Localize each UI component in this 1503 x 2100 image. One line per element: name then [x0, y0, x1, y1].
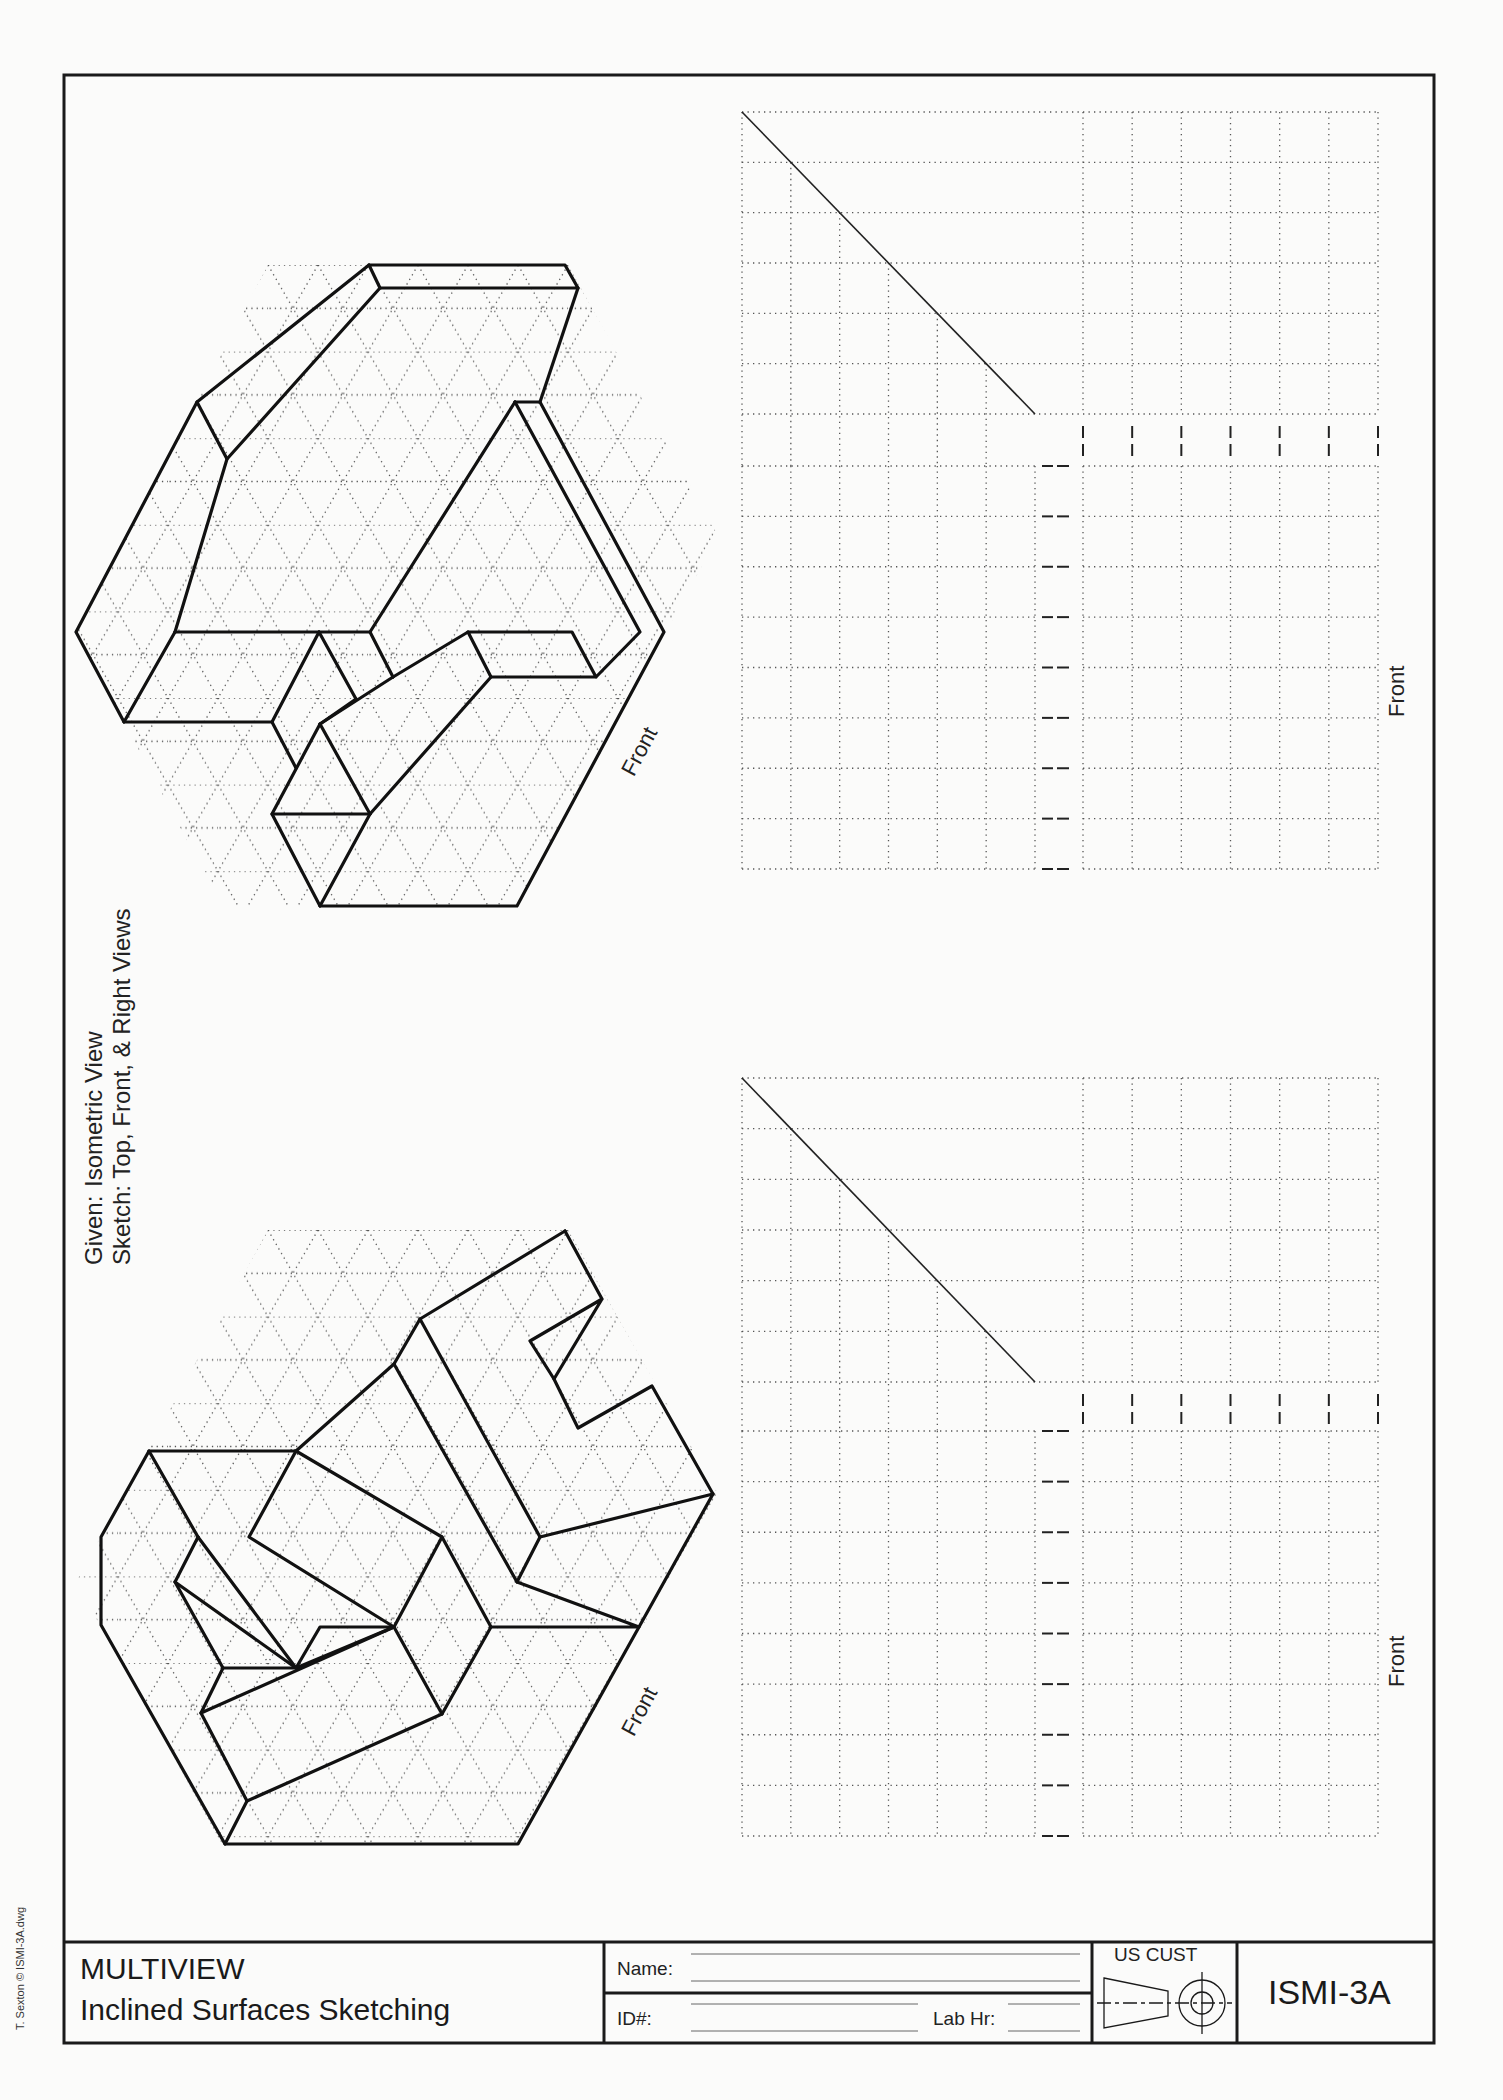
isometric-drawing-2 [76, 1230, 718, 1844]
drawing-number: ISMI-3A [1268, 1973, 1391, 2012]
given-line: Given:Isometric View [80, 908, 108, 1265]
sketch-line: Sketch: Top, Front, & Right Views [108, 908, 136, 1265]
sketch-grids [742, 112, 1378, 1836]
sketch-label: Sketch: [108, 1185, 135, 1265]
lab-hr-label: Lab Hr: [933, 2008, 995, 2030]
given-value: Isometric View [80, 1031, 107, 1187]
instructions: Given:Isometric View Sketch: Top, Front,… [80, 908, 136, 1265]
title-line-1: MULTIVIEW [80, 1952, 244, 1986]
id-label: ID#: [617, 2008, 652, 2030]
projection-lines [742, 112, 1378, 1836]
name-field[interactable] [694, 1958, 1080, 1980]
projection-standard: US CUST [1114, 1944, 1197, 1966]
iso-grid-1 [76, 265, 718, 906]
isometric-drawing-1 [76, 265, 718, 906]
grid-front-label-1: Front [1384, 666, 1410, 717]
name-label: Name: [617, 1958, 673, 1980]
worksheet: T. Sexton © ISMI-3A.dwg Given:Isometric … [0, 0, 1503, 2100]
third-angle-projection-icon [1097, 1972, 1232, 2034]
sketch-value: Top, Front, & Right Views [108, 908, 135, 1178]
title-line-2: Inclined Surfaces Sketching [80, 1993, 450, 2027]
drawing-credit: T. Sexton © ISMI-3A.dwg [14, 1907, 26, 2030]
lab-hr-field[interactable] [1010, 2008, 1080, 2030]
grid-front-label-2: Front [1384, 1636, 1410, 1687]
given-label: Given: [80, 1187, 108, 1265]
id-field[interactable] [694, 2008, 918, 2030]
